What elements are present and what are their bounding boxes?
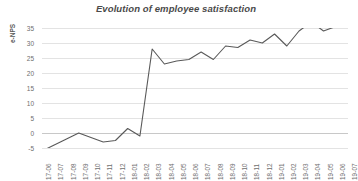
x-axis-tick-label: 18-07 [204,163,211,180]
x-axis-tick-label: 19-07 [351,163,358,180]
x-axis-tick-label: 17-10 [94,163,101,180]
x-axis-tick-label: 17-09 [82,163,89,180]
y-axis-tick-label: 30 [12,40,34,47]
x-axis-tick-label: 18-09 [229,163,236,180]
x-axis-tick-label: 19-02 [290,163,297,180]
x-axis-tick-label: 18-06 [192,163,199,180]
x-axis-tick-label: 18-10 [241,163,248,180]
x-axis-tick-label: 19-03 [302,163,309,180]
x-axis-tick-label: 18-11 [253,164,260,180]
x-axis-tick-label: 18-02 [143,163,150,180]
line-series [42,28,348,148]
y-axis-tick-label: 0 [12,130,34,137]
x-axis-ticks: 17-0617-0717-0817-0917-1017-1117-1218-01… [42,150,348,181]
gridline [42,148,348,149]
x-axis-tick-label: 18-03 [155,163,162,180]
x-axis-tick-label: 18-12 [266,163,273,180]
x-axis-tick-label: 19-05 [327,163,334,180]
chart-title: Evolution of employee satisfaction [0,3,352,14]
x-axis-tick-label: 18-04 [168,163,175,180]
y-axis-tick-label: 20 [12,70,34,77]
x-axis-tick-label: 17-11 [106,164,113,180]
x-axis-tick-label: 18-08 [217,163,224,180]
x-axis-tick-label: 17-07 [57,163,64,180]
x-axis-tick-label: 19-06 [339,163,346,180]
x-axis-tick-label: 18-01 [131,163,138,180]
y-axis-tick-label: 10 [12,100,34,107]
y-axis-tick-label: 5 [12,115,34,122]
y-axis-tick-label: 35 [12,25,34,32]
y-axis-tick-label: -5 [12,145,34,152]
x-axis-tick-label: 17-12 [119,163,126,180]
y-axis-tick-label: 25 [12,55,34,62]
x-axis-tick-label: 18-05 [180,163,187,180]
x-axis-tick-label: 19-04 [314,163,321,180]
x-axis-tick-label: 17-06 [45,163,52,180]
y-axis-tick-label: 15 [12,85,34,92]
plot-area: 35302520151050-5 [42,28,348,148]
x-axis-tick-label: 17-08 [70,163,77,180]
x-axis-tick-label: 19-01 [278,163,285,180]
y-axis-title: e-NPS [9,14,16,54]
